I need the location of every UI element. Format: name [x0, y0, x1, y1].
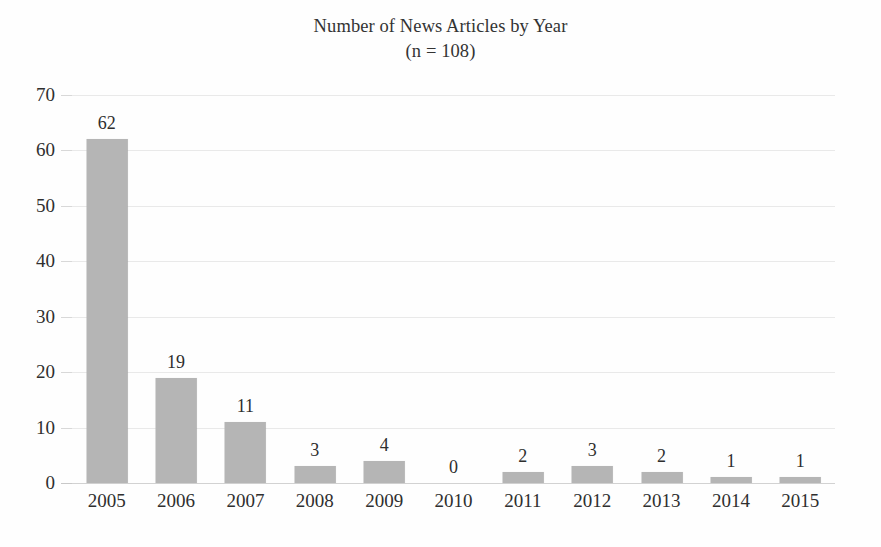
y-axis-tick-mark: [61, 428, 72, 429]
bar-group: 19: [141, 95, 210, 483]
bar-value-label: 4: [380, 436, 389, 454]
y-axis-tick-mark: [61, 483, 72, 484]
chart-subtitle: (n = 108): [0, 39, 881, 63]
bar-value-label: 1: [726, 452, 735, 470]
y-axis-tick-label: 0: [46, 472, 56, 494]
axis-baseline: [72, 483, 835, 484]
y-axis-tick-mark: [61, 95, 72, 96]
y-axis-tick-mark: [61, 317, 72, 318]
bar-value-label: 1: [796, 452, 805, 470]
bar-value-label: 62: [98, 114, 116, 132]
y-axis-tick-mark: [61, 261, 72, 262]
bar: [156, 378, 197, 483]
bar: [641, 472, 682, 483]
y-axis-tick-label: 70: [36, 84, 55, 106]
bars-layer: 62191134023211: [72, 95, 835, 483]
bar-group: 2: [488, 95, 557, 483]
bar-value-label: 3: [310, 441, 319, 459]
x-axis-tick-label: 2013: [643, 490, 681, 512]
plot-area: 010203040506070 62191134023211: [72, 95, 835, 483]
y-axis-tick-label: 60: [36, 139, 55, 161]
bar-value-label: 19: [167, 353, 185, 371]
x-axis-tick-label: 2007: [226, 490, 264, 512]
bar: [780, 477, 821, 483]
x-axis-tick-label: 2006: [157, 490, 195, 512]
bar-value-label: 2: [518, 447, 527, 465]
x-axis-tick-label: 2012: [573, 490, 611, 512]
chart-title-block: Number of News Articles by Year (n = 108…: [0, 14, 881, 63]
y-axis-tick-mark: [61, 372, 72, 373]
bar-group: 1: [766, 95, 835, 483]
x-axis-tick-label: 2009: [365, 490, 403, 512]
bar: [710, 477, 751, 483]
y-axis-tick-label: 10: [36, 417, 55, 439]
bar-value-label: 3: [588, 441, 597, 459]
x-axis-tick-label: 2014: [712, 490, 750, 512]
bar: [294, 466, 335, 483]
y-axis-tick-label: 50: [36, 195, 55, 217]
x-axis-tick-label: 2010: [435, 490, 473, 512]
bar: [364, 461, 405, 483]
bar-group: 4: [349, 95, 418, 483]
x-axis-tick-label: 2005: [88, 490, 126, 512]
bar-group: 62: [72, 95, 141, 483]
y-axis-tick-mark: [61, 150, 72, 151]
bar-group: 11: [211, 95, 280, 483]
bar-group: 2: [627, 95, 696, 483]
y-axis-tick-label: 20: [36, 361, 55, 383]
bar: [502, 472, 543, 483]
chart-title: Number of News Articles by Year: [0, 14, 881, 39]
bar-group: 0: [419, 95, 488, 483]
bar: [86, 139, 127, 483]
y-axis-tick-mark: [61, 206, 72, 207]
x-axis-tick-labels: 2005200620072008200920102011201220132014…: [72, 490, 835, 530]
x-axis-tick-label: 2015: [781, 490, 819, 512]
bar-value-label: 11: [237, 397, 254, 415]
bar-group: 3: [558, 95, 627, 483]
bar-value-label: 0: [449, 458, 458, 476]
bar-value-label: 2: [657, 447, 666, 465]
y-axis-tick-label: 30: [36, 306, 55, 328]
x-axis-tick-label: 2008: [296, 490, 334, 512]
bar-group: 1: [696, 95, 765, 483]
x-axis-tick-label: 2011: [504, 490, 541, 512]
bar: [225, 422, 266, 483]
y-axis-tick-label: 40: [36, 250, 55, 272]
bar-group: 3: [280, 95, 349, 483]
bar: [572, 466, 613, 483]
bar-chart-figure: Number of News Articles by Year (n = 108…: [0, 0, 881, 547]
